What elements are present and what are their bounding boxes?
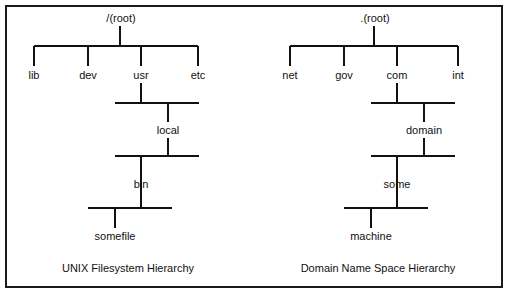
unix-node-somefile: somefile: [95, 230, 136, 242]
unix-node-root: /(root): [106, 12, 135, 24]
dns-panel-caption: Domain Name Space Hierarchy: [301, 262, 456, 274]
dns-node-net: net: [282, 69, 297, 81]
dns-node-int: int: [452, 69, 464, 81]
unix-filesystem-tree: lib dev usr etc local bin somefile /(roo…: [28, 12, 205, 274]
dns-node-com: com: [387, 69, 408, 81]
unix-node-usr: usr: [133, 69, 149, 81]
unix-node-lib: lib: [28, 69, 39, 81]
domain-name-space-tree: net gov com int domain some machine .(ro…: [282, 12, 463, 274]
dns-node-domain: domain: [406, 124, 442, 136]
dns-node-machine: machine: [350, 230, 392, 242]
hierarchy-diagram: lib dev usr etc local bin somefile /(roo…: [0, 0, 510, 295]
unix-node-local: local: [157, 124, 180, 136]
unix-panel-caption: UNIX Filesystem Hierarchy: [62, 262, 195, 274]
unix-node-etc: etc: [191, 69, 206, 81]
dns-node-gov: gov: [335, 69, 353, 81]
unix-node-dev: dev: [79, 69, 97, 81]
dns-node-root: .(root): [360, 12, 389, 24]
